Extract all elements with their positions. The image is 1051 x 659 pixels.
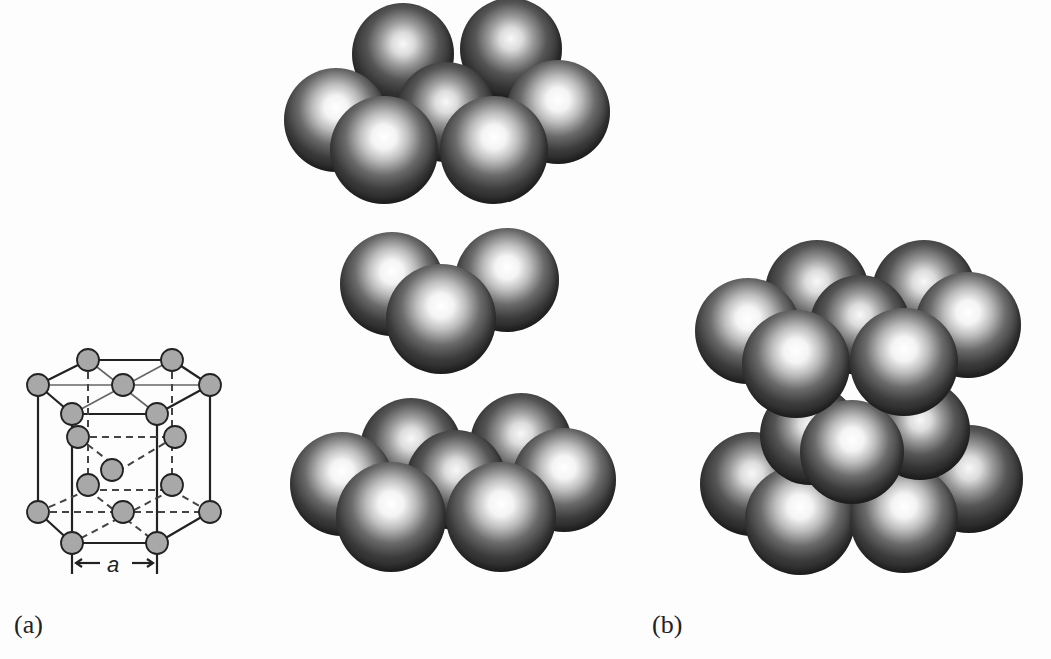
panel-label-a: (a) (14, 610, 43, 640)
hcp-unit-cell-diagram: a (0, 330, 240, 590)
panel-label-b: (b) (652, 610, 682, 640)
hcp-figure: a (0, 0, 1051, 659)
lattice-parameter-label: a (107, 552, 119, 577)
